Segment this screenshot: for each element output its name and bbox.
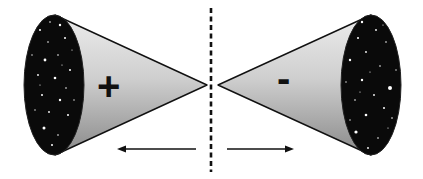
diagram-svg: [0, 0, 423, 179]
right-cone: [218, 15, 401, 155]
left-arrow: [117, 146, 196, 153]
cone-diagram: + -: [0, 0, 423, 179]
left-cone-universe-ellipse: [24, 15, 84, 155]
plus-sign-label: +: [97, 66, 120, 106]
right-arrow: [227, 146, 294, 153]
right-cone-universe-ellipse: [341, 15, 401, 155]
minus-sign-label: -: [277, 58, 290, 98]
